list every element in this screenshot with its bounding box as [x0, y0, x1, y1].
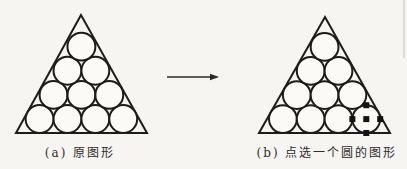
circle — [269, 105, 297, 133]
caption-figure-a: (a) 原图形 — [10, 146, 150, 161]
circle — [109, 105, 137, 133]
circle — [297, 105, 325, 133]
selection-handle-right — [377, 116, 383, 122]
circle — [81, 57, 109, 85]
circle — [283, 81, 311, 109]
circle — [95, 81, 123, 109]
figure-canvas — [0, 0, 407, 169]
circle — [311, 81, 339, 109]
circle — [325, 105, 353, 133]
circle — [54, 105, 82, 133]
selection-handle-left — [349, 116, 355, 122]
circle — [325, 57, 353, 85]
figure-page: (a) 原图形 (b) 点选一个圆的图形 — [0, 0, 407, 169]
selection-handle-center — [363, 116, 369, 122]
circle — [297, 57, 325, 85]
circle — [338, 81, 366, 109]
circle — [67, 33, 95, 61]
selection-handle-top — [363, 102, 369, 108]
circle — [67, 81, 95, 109]
selection-handle-bottom — [363, 130, 369, 136]
transform-arrow-head — [210, 74, 219, 80]
caption-figure-b: (b) 点选一个圆的图形 — [247, 146, 407, 161]
circle — [40, 81, 68, 109]
circle — [54, 57, 82, 85]
circle — [311, 33, 339, 61]
circle — [26, 105, 54, 133]
circle — [81, 105, 109, 133]
